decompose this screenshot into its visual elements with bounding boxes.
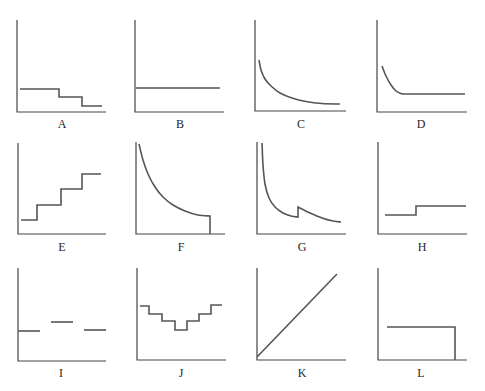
graph-panel-e xyxy=(18,143,106,234)
graph-panel-c xyxy=(255,20,346,111)
series-line-a xyxy=(20,89,102,106)
series-line-k xyxy=(257,274,337,357)
panel-label-d: D xyxy=(406,117,436,131)
panel-label-j: J xyxy=(166,366,196,380)
series-line-g xyxy=(262,143,341,222)
series-line-d xyxy=(382,66,465,94)
axes-i xyxy=(18,268,106,361)
panel-label-g: G xyxy=(287,240,317,254)
graph-panel-i xyxy=(18,268,106,361)
graph-panel-d xyxy=(377,20,467,112)
axes-d xyxy=(377,20,467,112)
series-line-l xyxy=(387,327,455,360)
series-line-h xyxy=(385,206,466,215)
graph-panel-h xyxy=(378,142,467,234)
graph-grid-figure: A B C D E F G H I J K L xyxy=(0,0,485,391)
graph-panel-f xyxy=(136,142,225,234)
graph-panel-a xyxy=(17,20,106,112)
graph-panel-j xyxy=(137,268,226,360)
graph-panel-l xyxy=(378,268,467,360)
panel-label-l: L xyxy=(406,366,436,380)
graph-panel-b xyxy=(135,20,224,112)
series-line-c xyxy=(259,60,340,104)
panel-label-h: H xyxy=(407,240,437,254)
series-line-f xyxy=(139,144,210,234)
axes-l xyxy=(378,268,467,360)
series-line-j xyxy=(140,305,222,330)
panel-label-c: C xyxy=(286,117,316,131)
graph-panel-k xyxy=(257,268,346,360)
axes-h xyxy=(378,142,467,234)
panel-label-a: A xyxy=(47,117,77,131)
plots-canvas xyxy=(0,0,485,391)
axes-a xyxy=(17,20,106,112)
graph-panel-g xyxy=(257,142,346,234)
panel-label-i: I xyxy=(46,366,76,380)
panel-label-f: F xyxy=(166,240,196,254)
panel-label-k: K xyxy=(287,366,317,380)
axes-b xyxy=(135,20,224,112)
panel-label-b: B xyxy=(165,117,195,131)
series-line-e xyxy=(21,174,101,220)
panel-label-e: E xyxy=(47,240,77,254)
axes-c xyxy=(255,20,346,111)
axes-f xyxy=(136,142,225,234)
axes-k xyxy=(257,268,346,360)
